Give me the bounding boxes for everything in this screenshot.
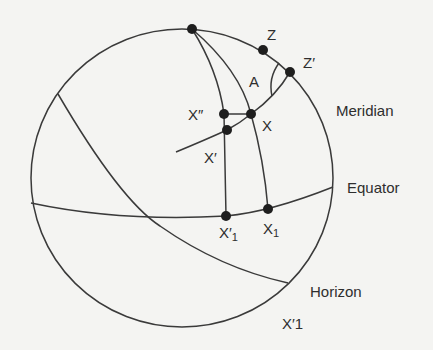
label-x-prime-1-main: X′ <box>219 224 232 241</box>
label-x-prime-1-sub: 1 <box>232 231 238 243</box>
label-x-double-prime: X″ <box>188 107 203 122</box>
hour-circle-x <box>192 29 268 209</box>
label-z: Z <box>267 27 276 42</box>
pole-point <box>187 24 197 34</box>
angle-arc-a <box>271 63 279 96</box>
label-x-prime-1-bottom: X′1 <box>282 316 303 331</box>
label-x1-main: X <box>263 220 273 237</box>
label-meridian: Meridian <box>336 103 394 118</box>
label-z-prime: Z′ <box>303 55 315 70</box>
equator-line <box>31 187 333 217</box>
point-x-double-prime <box>219 109 229 119</box>
point-z <box>258 45 268 55</box>
point-x <box>246 109 256 119</box>
label-x-prime: X′ <box>204 150 217 165</box>
label-x1-sub: 1 <box>273 227 279 239</box>
label-horizon: Horizon <box>310 284 362 299</box>
label-x1: X1 <box>263 221 279 239</box>
label-x-prime-1: X′1 <box>219 225 238 243</box>
label-x: X <box>262 118 272 133</box>
point-x-prime <box>222 125 232 135</box>
point-x-prime-1 <box>221 211 231 221</box>
point-z-prime <box>285 67 295 77</box>
point-x1 <box>263 204 273 214</box>
label-equator: Equator <box>347 180 400 195</box>
label-angle-a: A <box>249 74 259 89</box>
celestial-sphere-diagram <box>0 0 433 350</box>
